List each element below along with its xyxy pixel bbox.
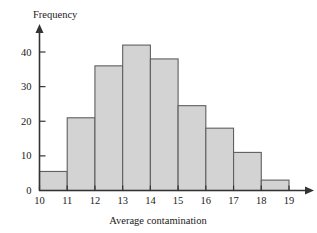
- histogram-bar: [67, 118, 95, 191]
- y-axis-title: Frequency: [33, 9, 78, 20]
- y-tick-label: 40: [21, 47, 32, 58]
- histogram-bar: [178, 106, 206, 191]
- histogram-bar: [261, 180, 289, 190]
- chart-canvas: 010203040 10111213141516171819 Frequency…: [0, 0, 317, 233]
- x-tick-label: 13: [117, 195, 128, 206]
- histogram-bar: [234, 152, 262, 190]
- histogram-bar: [206, 128, 234, 190]
- y-tick-label: 30: [21, 81, 32, 92]
- y-tick-label: 0: [26, 185, 31, 196]
- x-tick-label: 15: [173, 195, 184, 206]
- x-tick-label: 14: [145, 195, 156, 206]
- x-tick-label: 19: [284, 195, 295, 206]
- x-axis-title: Average contamination: [109, 215, 207, 226]
- histogram-bar: [95, 66, 123, 191]
- x-tick-label: 17: [228, 195, 239, 206]
- x-tick-label: 10: [34, 195, 45, 206]
- y-tick-label: 10: [21, 150, 32, 161]
- histogram-bar: [40, 171, 68, 190]
- histogram-chart: 010203040 10111213141516171819 Frequency…: [0, 0, 317, 233]
- x-tick-label: 11: [62, 195, 72, 206]
- histogram-bar: [123, 45, 151, 190]
- y-tick-label: 20: [21, 116, 32, 127]
- histogram-bar: [150, 59, 178, 191]
- x-tick-label: 12: [90, 195, 101, 206]
- x-tick-label: 18: [256, 195, 267, 206]
- x-tick-label: 16: [201, 195, 212, 206]
